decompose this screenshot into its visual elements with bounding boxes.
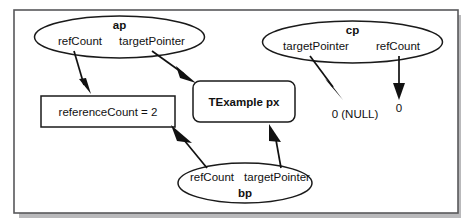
node-label-bp: bp bbox=[238, 187, 252, 199]
field-ap-refcount: refCount bbox=[58, 35, 103, 47]
value-cp-target-null: 0 (NULL) bbox=[332, 108, 379, 120]
field-bp-refcount: refCount bbox=[190, 171, 235, 183]
node-label-cp: cp bbox=[346, 24, 359, 36]
label-texample-px: TExample px bbox=[209, 96, 281, 108]
field-ap-targetpointer: targetPointer bbox=[119, 35, 185, 47]
diagram-canvas: ap refCount targetPointer cp targetPoint… bbox=[0, 0, 471, 224]
field-cp-refcount: refCount bbox=[376, 40, 421, 52]
value-cp-refcount-zero: 0 bbox=[396, 102, 402, 114]
field-bp-targetpointer: targetPointer bbox=[244, 171, 310, 183]
diagram-root: ap refCount targetPointer cp targetPoint… bbox=[0, 0, 471, 224]
field-cp-targetpointer: targetPointer bbox=[283, 40, 349, 52]
node-label-ap: ap bbox=[113, 19, 126, 31]
label-reference-count: referenceCount = 2 bbox=[59, 106, 158, 118]
